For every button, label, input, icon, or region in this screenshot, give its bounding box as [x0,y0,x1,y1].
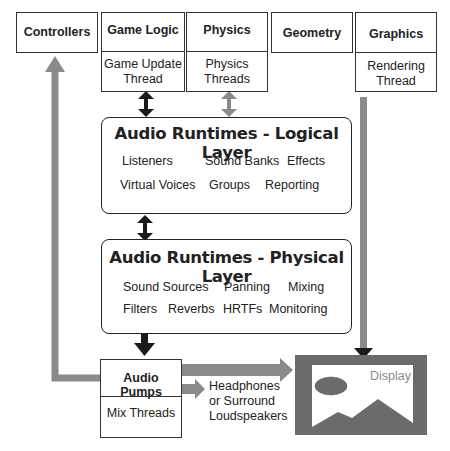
game-logic-sub1: Game Update [102,57,184,72]
controllers-title: Controllers [17,25,97,39]
physical-item-reverbs: Reverbs [168,302,215,316]
physics-divider [187,51,267,52]
pumps-to-display-arrow [182,364,282,376]
logical-physical-double-arrow [137,215,153,241]
physical-item-filters: Filters [123,302,157,316]
physical-item-sound-sources: Sound Sources [123,280,208,294]
controllers-feedback-arrow [55,70,100,378]
physical-item-monitoring: Monitoring [269,302,327,316]
controllers-arrowhead [45,56,65,72]
game-logic-sub2: Thread [102,72,184,87]
game-logic-double-arrow [138,91,154,117]
audio-pumps-title: Audio Pumps [101,371,181,399]
logical-item-reporting: Reporting [265,178,319,192]
game-logic-box: Game Logic Game Update Thread [101,12,185,92]
logical-item-listeners: Listeners [122,154,173,168]
physics-sub1: Physics [187,57,267,72]
graphics-title: Graphics [356,27,436,41]
geometry-box: Geometry [271,12,353,53]
display-label: Display [370,369,411,383]
physical-item-mixing: Mixing [288,280,324,294]
graphics-sub2: Thread [356,74,436,89]
audio-pumps-sub: Mix Threads [101,406,181,421]
game-logic-title: Game Logic [102,23,184,37]
physics-box: Physics Physics Threads [186,12,268,92]
controllers-box: Controllers [16,12,98,53]
graphics-box: Graphics Rendering Thread [355,12,437,92]
logical-item-groups: Groups [209,178,250,192]
physics-sub2: Threads [187,72,267,87]
physical-item-hrtfs: HRTFs [223,302,262,316]
geometry-title: Geometry [272,26,352,40]
output-line1: Headphones [209,379,280,393]
pumps-to-headphones-arrow [182,384,196,394]
physics-double-arrow [221,91,237,117]
physical-layer-box: Audio Runtimes - Physical Layer Sound So… [101,239,352,334]
graphics-sub1: Rendering [356,59,436,74]
logical-item-effects: Effects [287,154,325,168]
display-sun-shape [315,377,347,395]
output-line2: or Surround [209,394,275,408]
audio-pumps-divider [101,396,181,397]
logical-item-virtual-voices: Virtual Voices [120,178,196,192]
physical-item-panning: Panning [224,280,270,294]
graphics-divider [356,52,436,53]
logical-item-sound-banks: Sound Banks [205,154,279,168]
audio-pumps-box: Audio Pumps Mix Threads [100,359,182,438]
physics-title: Physics [187,23,267,37]
graphics-to-display-arrow [360,97,367,350]
logical-layer-box: Audio Runtimes - Logical Layer Listeners… [101,117,352,214]
game-logic-divider [102,51,184,52]
output-line3: Loudspeakers [209,409,288,423]
